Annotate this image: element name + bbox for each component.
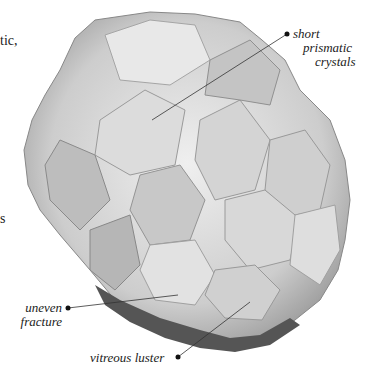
annotation-dot	[285, 32, 290, 37]
partial-caption-top: tic,	[0, 34, 18, 48]
label-vitreous-luster: vitreous luster	[90, 351, 164, 365]
label-short-prismatic-crystals: short prismatic crystals	[293, 27, 355, 69]
partial-caption-mid: s	[0, 212, 5, 226]
annotation-dot	[176, 355, 181, 360]
label-uneven-fracture: uneven fracture	[20, 301, 62, 329]
specimen-figure: tic, s short prismatic crystals uneven f…	[0, 0, 376, 368]
annotation-dot	[66, 306, 71, 311]
